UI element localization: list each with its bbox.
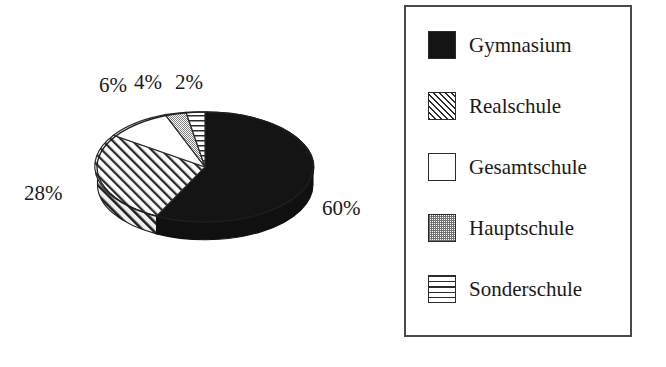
pie-chart-area: 6% 4% 2% 28% 60% — [0, 0, 400, 367]
data-label-realschule: 28% — [24, 183, 63, 204]
legend-label-gymnasium: Gymnasium — [469, 35, 572, 56]
data-label-hauptschule: 4% — [134, 72, 162, 93]
data-label-sonderschule: 2% — [175, 72, 203, 93]
horizontal-lines-swatch-icon — [428, 275, 456, 303]
pie-chart-figure: 6% 4% 2% 28% 60% Gymnasium Realschule Ge… — [0, 0, 666, 367]
legend-label-gesamtschule: Gesamtschule — [469, 157, 587, 178]
data-label-gymnasium: 60% — [322, 198, 361, 219]
legend-item-sonderschule: Sonderschule — [428, 274, 582, 304]
solid-black-swatch-icon — [428, 31, 456, 59]
legend-item-gesamtschule: Gesamtschule — [428, 152, 587, 182]
legend-label-hauptschule: Hauptschule — [469, 218, 574, 239]
empty-white-swatch-icon — [428, 153, 456, 181]
data-label-gesamtschule: 6% — [99, 75, 127, 96]
legend-item-gymnasium: Gymnasium — [428, 30, 572, 60]
chart-legend: Gymnasium Realschule Gesamtschule Haupts… — [404, 5, 632, 337]
legend-label-sonderschule: Sonderschule — [469, 279, 582, 300]
pie-top-face — [95, 112, 314, 222]
legend-item-hauptschule: Hauptschule — [428, 213, 574, 243]
diagonal-hatch-swatch-icon — [428, 92, 456, 120]
legend-item-realschule: Realschule — [428, 91, 561, 121]
gray-dots-swatch-icon — [428, 214, 456, 242]
legend-label-realschule: Realschule — [469, 96, 561, 117]
